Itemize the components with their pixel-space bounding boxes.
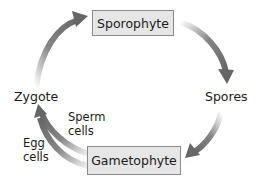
egg-label-line2: cells bbox=[23, 150, 49, 164]
arrow-sporophyte-to-spores bbox=[180, 22, 234, 84]
egg-label-line1: Egg bbox=[23, 136, 49, 150]
sporophyte-box: Sporophyte bbox=[92, 10, 174, 36]
life-cycle-diagram: Sporophyte Gametophyte Spores Zygote Spe… bbox=[0, 0, 260, 182]
gametophyte-label: Gametophyte bbox=[91, 153, 177, 168]
zygote-label: Zygote bbox=[14, 90, 58, 104]
gametophyte-box: Gametophyte bbox=[87, 146, 181, 175]
egg-cells-label: Egg cells bbox=[23, 136, 49, 164]
arrow-zygote-to-sporophyte bbox=[36, 11, 88, 88]
arrow-spores-to-gametophyte bbox=[185, 112, 221, 158]
spores-label: Spores bbox=[205, 90, 248, 104]
sporophyte-label: Sporophyte bbox=[97, 16, 169, 31]
sperm-label-line2: cells bbox=[68, 124, 105, 138]
sperm-label-line1: Sperm bbox=[68, 110, 105, 124]
sperm-cells-label: Sperm cells bbox=[68, 110, 105, 138]
